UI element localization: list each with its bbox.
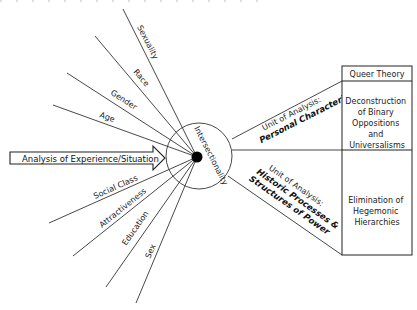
label-gender: Gender	[109, 88, 139, 112]
center-dot	[192, 152, 203, 163]
unit-historic: Unit of Analysis: Historic Processes & S…	[247, 158, 346, 239]
label-sex: Sex	[144, 243, 158, 260]
theory-header: Queer Theory	[350, 70, 405, 79]
unit-historic-emphasis-1: Historic Processes &	[255, 166, 341, 231]
cell1-line2: of Binary	[358, 108, 394, 117]
theory-cell-2: Elimination of Hegemonic Hierarchies	[348, 196, 406, 227]
theory-cell-1: Deconstruction of Binary Oppositions and…	[345, 97, 408, 150]
queer-theory-box: Queer Theory Deconstruction of Binary Op…	[342, 66, 412, 255]
intersectionality-diagram: Sexuality Race Gender Age Social Class A…	[0, 0, 417, 310]
spoke-sex	[136, 157, 197, 303]
spoke-attractiveness	[73, 157, 197, 256]
cell2-line1: Elimination of	[348, 196, 403, 205]
label-sexuality: Sexuality	[135, 24, 160, 61]
spoke-gender	[67, 73, 197, 157]
label-race: Race	[131, 68, 151, 89]
arrow-label: Analysis of Experience/Situation	[22, 154, 159, 164]
cell1-line5: Universalisms	[349, 141, 405, 150]
cell2-line2: Hegemonic	[353, 207, 398, 216]
cell1-line3: Oppositions	[352, 119, 399, 128]
analysis-arrow: Analysis of Experience/Situation	[10, 146, 165, 170]
cell2-line3: Hierarchies	[354, 218, 399, 227]
cell1-line1: Deconstruction	[345, 97, 406, 106]
cell1-line4: and	[368, 130, 383, 139]
spoke-education	[106, 157, 197, 287]
